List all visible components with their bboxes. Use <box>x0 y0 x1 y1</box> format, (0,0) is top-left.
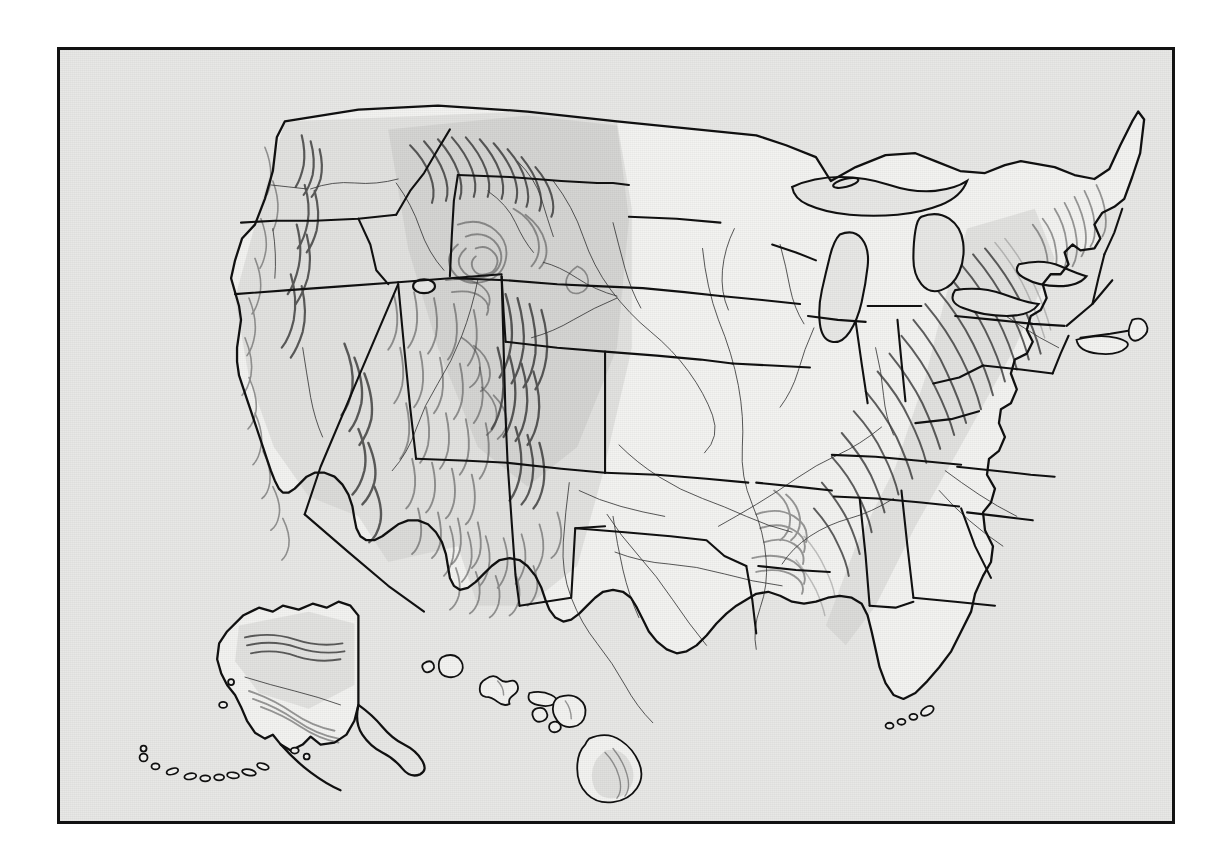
island-niihau <box>422 661 434 672</box>
florida-keys <box>886 704 936 729</box>
island-kahoolawe <box>549 722 561 733</box>
island-molokai <box>528 692 556 706</box>
page-root: United States shaded relief map Black-an… <box>0 0 1232 866</box>
alaska-inset <box>140 602 425 791</box>
map-frame: United States shaded relief map Black-an… <box>57 47 1175 824</box>
island-cape-cod <box>1129 319 1148 341</box>
alaska-panhandle <box>357 705 425 776</box>
alaska-peninsula <box>281 745 341 791</box>
conus-landmass <box>231 106 1147 729</box>
island-oahu <box>480 676 518 705</box>
lake-huron <box>913 214 963 291</box>
hawaii-inset <box>422 655 641 802</box>
island-long-island <box>1077 336 1128 354</box>
us-relief-map <box>60 50 1172 821</box>
island-kauai <box>439 655 463 677</box>
island-lanai <box>532 708 547 722</box>
